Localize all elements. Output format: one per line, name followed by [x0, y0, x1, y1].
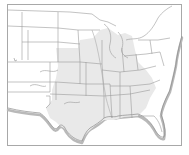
map-container	[0, 0, 189, 155]
us-map	[0, 0, 189, 155]
